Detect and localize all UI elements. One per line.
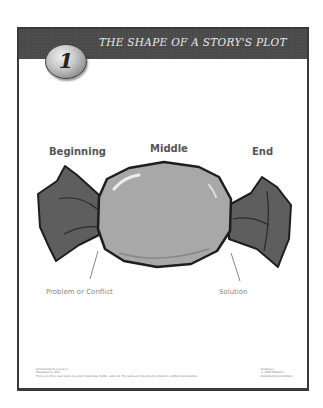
- label-solution: Solution: [219, 288, 248, 296]
- footer-right: Reading 1 © 2000 Publisher Reproduction …: [261, 368, 301, 378]
- candy-body: [98, 162, 231, 267]
- label-problem-or-conflict: Problem or Conflict: [46, 288, 113, 296]
- page-frame: THE SHAPE OF A STORY'S PLOT 1 Beginning …: [17, 27, 309, 391]
- footer-left: Introduction to Lesson 4 Transparency: P…: [36, 368, 206, 378]
- footer-left-line: There are three main parts to a plot: be…: [36, 375, 206, 378]
- footer-right-line: Reproduction prohibited.: [261, 375, 301, 378]
- left-wrapper: [38, 166, 99, 261]
- candy-diagram: [19, 29, 311, 393]
- right-wrapper: [229, 177, 291, 267]
